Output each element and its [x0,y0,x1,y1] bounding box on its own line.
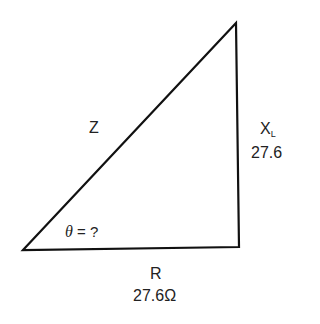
angle-question: = ? [77,223,98,240]
reactance-label: XL [260,121,276,139]
resistance-value: 27.6Ω [133,288,176,304]
triangle-shape [23,23,239,250]
hypotenuse-label-z: Z [89,120,99,136]
reactance-value: 27.6 [251,145,282,161]
reactance-subscript: L [271,129,276,139]
theta-symbol: θ [65,223,73,240]
resistance-symbol: R [150,266,162,282]
angle-label: θ = ? [65,224,98,240]
reactance-symbol: X [260,120,271,137]
